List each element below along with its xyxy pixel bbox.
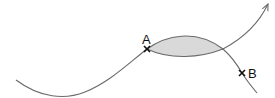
curve-1 (16, 4, 268, 96)
point-a-label: A (142, 32, 151, 47)
diagram: A B (0, 0, 275, 98)
point-b-label: B (248, 66, 257, 81)
point-b-marker (239, 70, 245, 76)
